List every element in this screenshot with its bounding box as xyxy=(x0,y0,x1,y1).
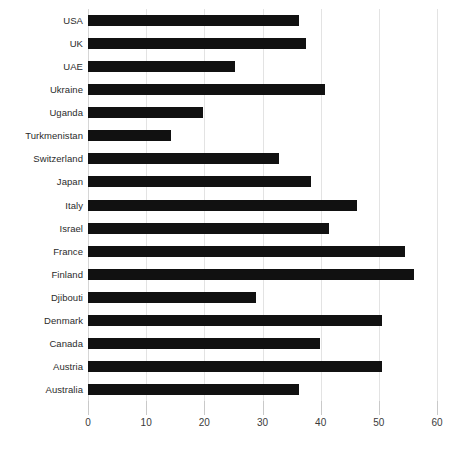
category-label: Canada xyxy=(0,338,83,349)
bar xyxy=(88,246,405,257)
x-tick-label: 60 xyxy=(417,417,457,428)
bar-chart: USAUKUAEUkraineUgandaTurkmenistanSwitzer… xyxy=(0,0,458,452)
bar xyxy=(88,269,414,280)
category-label: Israel xyxy=(0,223,83,234)
x-tick-0 xyxy=(88,401,89,415)
category-label: Switzerland xyxy=(0,153,83,164)
category-label: Italy xyxy=(0,200,83,211)
bar xyxy=(88,176,311,187)
bar xyxy=(88,384,299,395)
x-tick-label: 0 xyxy=(68,417,108,428)
x-tick-20 xyxy=(204,401,205,415)
bar-row xyxy=(88,384,437,395)
category-axis: USAUKUAEUkraineUgandaTurkmenistanSwitzer… xyxy=(0,9,83,401)
x-tick-50 xyxy=(379,401,380,415)
bar-row xyxy=(88,361,437,372)
bar-row xyxy=(88,38,437,49)
category-label: UK xyxy=(0,38,83,49)
bar-row xyxy=(88,338,437,349)
x-tick-10 xyxy=(146,401,147,415)
bar-row xyxy=(88,292,437,303)
category-label: Turkmenistan xyxy=(0,130,83,141)
bar xyxy=(88,84,325,95)
category-label: USA xyxy=(0,15,83,26)
category-label: Uganda xyxy=(0,107,83,118)
bar xyxy=(88,223,329,234)
x-tick-label: 50 xyxy=(359,417,399,428)
x-tick-40 xyxy=(321,401,322,415)
bar-row xyxy=(88,176,437,187)
bar-row xyxy=(88,315,437,326)
bar-row xyxy=(88,223,437,234)
bar-row xyxy=(88,246,437,257)
category-label: UAE xyxy=(0,61,83,72)
category-label: France xyxy=(0,246,83,257)
bar xyxy=(88,38,306,49)
bar-row xyxy=(88,130,437,141)
bar xyxy=(88,61,235,72)
category-label: Djibouti xyxy=(0,292,83,303)
category-label: Austria xyxy=(0,361,83,372)
category-label: Finland xyxy=(0,269,83,280)
x-tick-label: 10 xyxy=(126,417,166,428)
gridline-60 xyxy=(437,9,438,401)
bar-row xyxy=(88,61,437,72)
x-tick-60 xyxy=(437,401,438,415)
value-axis: 0102030405060 xyxy=(88,401,437,446)
bar-row xyxy=(88,269,437,280)
bar xyxy=(88,107,203,118)
x-tick-label: 40 xyxy=(301,417,341,428)
x-tick-30 xyxy=(263,401,264,415)
category-label: Denmark xyxy=(0,315,83,326)
category-label: Australia xyxy=(0,384,83,395)
bar xyxy=(88,315,382,326)
x-tick-label: 20 xyxy=(184,417,224,428)
bar-row xyxy=(88,153,437,164)
category-label: Ukraine xyxy=(0,84,83,95)
bar xyxy=(88,153,279,164)
bar xyxy=(88,361,382,372)
plot-area xyxy=(88,9,437,401)
bar-row xyxy=(88,15,437,26)
bar xyxy=(88,200,357,211)
bar-row xyxy=(88,84,437,95)
bar-row xyxy=(88,107,437,118)
x-tick-label: 30 xyxy=(243,417,283,428)
bar xyxy=(88,338,320,349)
bars-layer xyxy=(88,9,437,401)
bar xyxy=(88,130,171,141)
bar-row xyxy=(88,200,437,211)
category-label: Japan xyxy=(0,176,83,187)
bar xyxy=(88,292,256,303)
bar xyxy=(88,15,299,26)
